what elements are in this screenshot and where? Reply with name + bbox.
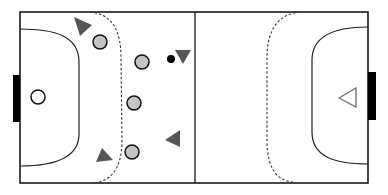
attacker-icon (175, 50, 191, 64)
ball-icon (167, 55, 175, 63)
goalkeeper-right-icon (339, 88, 356, 107)
defender-icon (135, 55, 149, 69)
attacker-icon (165, 130, 180, 147)
defender-icon (93, 35, 107, 49)
right-free-throw-line (267, 12, 300, 182)
goalkeeper-left-icon (31, 90, 45, 104)
defender-icon (125, 145, 139, 159)
defender-icon (127, 96, 141, 110)
left-goal-area-line (20, 29, 79, 166)
left-goal (13, 75, 20, 122)
right-goal (368, 72, 376, 120)
attacker-icon (74, 17, 92, 36)
handball-court (0, 0, 388, 195)
court-boundary (20, 12, 368, 183)
attacker-icon (96, 148, 113, 162)
right-goal-area-line (312, 27, 368, 164)
